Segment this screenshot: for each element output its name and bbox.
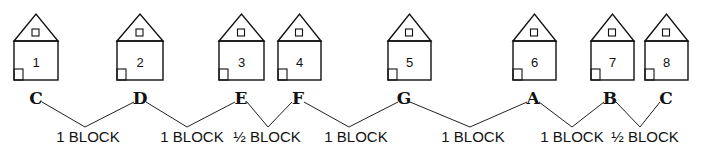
roof bbox=[219, 14, 264, 41]
attic-window-icon bbox=[609, 29, 616, 36]
distance-label: ½ BLOCK bbox=[233, 128, 301, 145]
connector-line bbox=[146, 102, 235, 127]
house-letter-e: E bbox=[235, 88, 248, 108]
house-number: 3 bbox=[238, 55, 245, 70]
distance-7: ½ BLOCK bbox=[611, 102, 679, 145]
door-icon bbox=[645, 69, 654, 80]
connector-line bbox=[42, 102, 134, 127]
distance-3: ½ BLOCK bbox=[233, 102, 301, 145]
distance-label: 1 BLOCK bbox=[441, 128, 504, 145]
attic-window-icon bbox=[136, 29, 143, 36]
house-8: 8 bbox=[645, 14, 688, 80]
house-2: 2 bbox=[117, 14, 163, 80]
distance-5: 1 BLOCK bbox=[410, 102, 527, 145]
attic-window-icon bbox=[531, 29, 538, 36]
house-1: 1 bbox=[14, 14, 58, 80]
house-letter-b: B bbox=[603, 88, 617, 108]
house-letter-a: A bbox=[525, 88, 540, 108]
attic-window-icon bbox=[406, 29, 413, 36]
roof bbox=[645, 14, 688, 41]
house-letter-d: D bbox=[133, 88, 148, 108]
house-6: 6 bbox=[513, 14, 556, 80]
house-number: 1 bbox=[32, 55, 39, 70]
roof bbox=[117, 14, 163, 41]
street-block-diagram: 12345678 CDEFGABC 1 BLOCK1 BLOCK½ BLOCK1… bbox=[0, 0, 708, 152]
attic-window-icon bbox=[32, 29, 39, 36]
door-icon bbox=[219, 69, 228, 80]
house-7: 7 bbox=[591, 14, 634, 80]
house-number: 4 bbox=[296, 55, 303, 70]
house-5: 5 bbox=[388, 14, 431, 80]
connector-line bbox=[539, 102, 604, 127]
house-letter-c: C bbox=[29, 88, 43, 108]
distance-label: 1 BLOCK bbox=[160, 128, 223, 145]
distance-label: 1 BLOCK bbox=[56, 128, 119, 145]
roof bbox=[591, 14, 634, 41]
door-icon bbox=[591, 69, 600, 80]
door-icon bbox=[117, 69, 126, 80]
distance-label: 1 BLOCK bbox=[540, 128, 603, 145]
house-number: 6 bbox=[531, 55, 538, 70]
door-icon bbox=[388, 69, 397, 80]
distance-4: 1 BLOCK bbox=[304, 102, 398, 145]
connector-line bbox=[410, 102, 527, 127]
distance-label: ½ BLOCK bbox=[611, 128, 679, 145]
door-icon bbox=[14, 69, 23, 80]
roof bbox=[388, 14, 431, 41]
house-letter-g: G bbox=[397, 88, 412, 108]
attic-window-icon bbox=[296, 29, 303, 36]
connector-line bbox=[304, 102, 398, 127]
distance-connectors: 1 BLOCK1 BLOCK½ BLOCK1 BLOCK1 BLOCK1 BLO… bbox=[42, 102, 679, 145]
distance-label: 1 BLOCK bbox=[324, 128, 387, 145]
distance-1: 1 BLOCK bbox=[42, 102, 134, 145]
distance-6: 1 BLOCK bbox=[539, 102, 604, 145]
house-number: 8 bbox=[663, 55, 670, 70]
roof bbox=[14, 14, 58, 41]
distance-2: 1 BLOCK bbox=[146, 102, 235, 145]
house-number: 5 bbox=[406, 55, 413, 70]
house-number: 7 bbox=[609, 55, 616, 70]
houses: 12345678 bbox=[14, 14, 688, 80]
roof bbox=[513, 14, 556, 41]
attic-window-icon bbox=[238, 29, 245, 36]
roof bbox=[278, 14, 321, 41]
house-letter-c: C bbox=[659, 88, 673, 108]
connector-line bbox=[247, 102, 292, 127]
house-3: 3 bbox=[219, 14, 264, 80]
connector-line bbox=[616, 102, 660, 127]
house-letters: CDEFGABC bbox=[29, 88, 673, 108]
house-letter-f: F bbox=[292, 88, 304, 108]
house-number: 2 bbox=[136, 55, 143, 70]
door-icon bbox=[513, 69, 522, 80]
attic-window-icon bbox=[663, 29, 670, 36]
house-4: 4 bbox=[278, 14, 321, 80]
door-icon bbox=[278, 69, 287, 80]
